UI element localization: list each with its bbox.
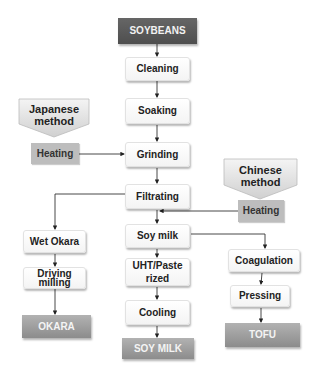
product-tofu: TOFU [225, 323, 300, 347]
step-soy-milk: Soy milk [125, 224, 190, 248]
step-filtrating: Filtrating [125, 184, 190, 209]
step-coagulation: Coagulation [228, 249, 300, 272]
step-soaking: Soaking [125, 98, 190, 124]
step-cooling: Cooling [125, 300, 190, 325]
step-wet-okara: Wet Okara [23, 230, 86, 253]
japanese-heating: Heating [31, 143, 79, 164]
step-grinding: Grinding [125, 142, 190, 167]
chinese-heating: Heating [238, 200, 284, 222]
uht-line-1: UHT/Paste [132, 261, 182, 271]
step-cleaning: Cleaning [125, 57, 190, 81]
japanese-method-pentagon: Japanese method [18, 98, 90, 138]
chinese-label-line2: method [223, 176, 298, 188]
soybeans-start: SOYBEANS [118, 18, 197, 44]
product-okara: OKARA [22, 315, 91, 338]
chinese-method-pentagon: Chinese method [223, 158, 298, 200]
product-soy-milk: SOY MILK [122, 338, 194, 359]
step-uht-pasteurized: UHT/Paste rized [125, 258, 190, 286]
step-drying-milling: Driying milling [23, 267, 86, 289]
step-pressing: Pressing [230, 285, 290, 307]
uht-line-2: rized [146, 274, 169, 284]
drying-line-2: milling [38, 278, 70, 287]
japanese-label-line2: method [18, 115, 90, 127]
japanese-label-line1: Japanese [18, 103, 90, 115]
chinese-label-line1: Chinese [223, 164, 298, 176]
